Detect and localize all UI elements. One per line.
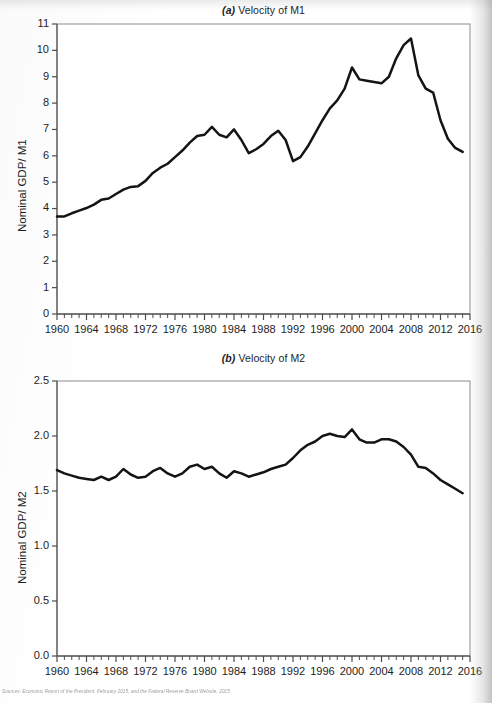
figure-source-note: Sources: Economic Report of the Presiden… [2,689,492,695]
svg-text:1960: 1960 [45,323,69,335]
source-note-text: Economic Report of the President, Februa… [22,689,230,694]
svg-text:1996: 1996 [310,323,334,335]
svg-text:0.5: 0.5 [34,594,49,606]
svg-text:3: 3 [43,228,49,240]
svg-text:1980: 1980 [192,665,216,677]
svg-text:9: 9 [43,70,49,82]
svg-text:1960: 1960 [45,665,69,677]
svg-text:0: 0 [43,307,49,319]
svg-text:7: 7 [43,122,49,134]
svg-text:2012: 2012 [428,323,452,335]
chart-b-plot: 0.00.51.01.52.02.51960196419681972197619… [0,348,492,680]
svg-text:2008: 2008 [399,665,423,677]
svg-text:2008: 2008 [399,323,423,335]
chart-a-plot: 0123456789101119601964196819721976198019… [0,0,492,345]
svg-text:1988: 1988 [251,323,275,335]
chart-panel-velocity-m2: (b) Velocity of M2 Nominal GDP/ M2 0.00.… [0,348,492,680]
svg-text:2004: 2004 [369,323,393,335]
svg-text:2.5: 2.5 [34,374,49,386]
svg-text:1996: 1996 [310,665,334,677]
svg-text:1.5: 1.5 [34,484,49,496]
svg-text:2000: 2000 [340,665,364,677]
svg-text:5: 5 [43,175,49,187]
svg-text:4: 4 [43,201,49,213]
svg-text:1.0: 1.0 [34,539,49,551]
svg-text:2016: 2016 [458,665,482,677]
svg-text:1992: 1992 [281,323,305,335]
svg-text:1984: 1984 [222,323,246,335]
svg-text:1976: 1976 [163,665,187,677]
svg-text:1984: 1984 [222,665,246,677]
svg-text:1968: 1968 [104,665,128,677]
svg-text:6: 6 [43,149,49,161]
svg-text:1964: 1964 [74,323,98,335]
svg-text:1964: 1964 [74,665,98,677]
svg-text:2012: 2012 [428,665,452,677]
svg-text:2016: 2016 [458,323,482,335]
svg-text:1988: 1988 [251,665,275,677]
svg-text:1980: 1980 [192,323,216,335]
svg-text:1976: 1976 [163,323,187,335]
svg-text:11: 11 [38,17,49,29]
svg-text:0.0: 0.0 [34,649,49,661]
svg-text:1992: 1992 [281,665,305,677]
svg-text:2.0: 2.0 [34,429,49,441]
source-note-prefix: Sources: [2,689,21,694]
svg-text:1: 1 [43,281,49,293]
svg-text:2000: 2000 [340,323,364,335]
chart-panel-velocity-m1: (a) Velocity of M1 Nominal GDP/ M1 01234… [0,0,492,345]
svg-text:2004: 2004 [369,665,393,677]
svg-text:2: 2 [43,254,49,266]
svg-text:8: 8 [43,96,49,108]
svg-text:1968: 1968 [104,323,128,335]
svg-text:10: 10 [37,43,49,55]
svg-text:1972: 1972 [133,323,157,335]
svg-text:1972: 1972 [133,665,157,677]
